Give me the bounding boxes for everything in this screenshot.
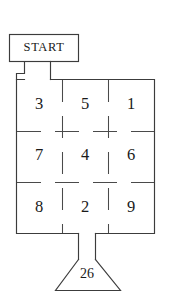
grid-outline-left bbox=[17, 80, 79, 234]
grid-cell-r0c1[interactable]: 5 bbox=[81, 94, 89, 113]
grid-cell-r1c2[interactable]: 6 bbox=[127, 145, 135, 164]
grid-cell-r1c1[interactable]: 4 bbox=[81, 145, 89, 164]
grid-cell-r2c1[interactable]: 2 bbox=[81, 197, 89, 216]
grid-cell-r0c0[interactable]: 3 bbox=[35, 94, 43, 113]
funnel-label: 26 bbox=[80, 266, 94, 281]
grid-cell-r1c0[interactable]: 7 bbox=[35, 145, 43, 164]
grid-cell-r2c0[interactable]: 8 bbox=[35, 197, 43, 216]
grid-outline-right bbox=[51, 80, 155, 234]
start-left-channel-line bbox=[17, 62, 25, 80]
grid-cell-r0c2[interactable]: 1 bbox=[127, 94, 135, 113]
start-label: START bbox=[24, 40, 65, 54]
grid-cell-r2c2[interactable]: 9 bbox=[127, 197, 135, 216]
flow-diagram-svg: START 3 5 1 7 4 6 8 2 9 26 bbox=[0, 0, 171, 304]
diagram-canvas: START 3 5 1 7 4 6 8 2 9 26 bbox=[0, 0, 171, 304]
